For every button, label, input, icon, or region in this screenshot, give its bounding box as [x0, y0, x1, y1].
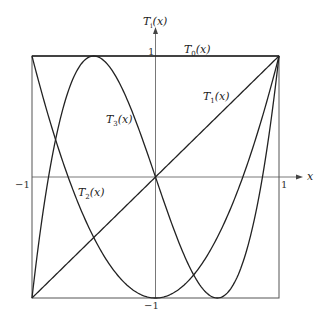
chebyshev-chart — [0, 0, 326, 324]
x-axis-label: x — [307, 171, 313, 182]
tick-x-right: 1 — [281, 180, 287, 190]
tick-y-top: 1 — [148, 47, 154, 57]
label-t1: T1(x) — [203, 91, 230, 105]
tick-y-bottom: −1 — [144, 301, 159, 311]
label-t0: T0(x) — [184, 44, 211, 58]
label-t2: T2(x) — [78, 187, 105, 201]
label-t3: T3(x) — [106, 114, 133, 128]
tick-x-left: −1 — [15, 180, 30, 190]
y-axis-label: Ti(x) — [143, 16, 167, 30]
x-axis-arrow-icon — [296, 175, 303, 180]
